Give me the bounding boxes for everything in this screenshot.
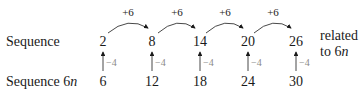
row-label-sequence-6n: Sequence 6n [6, 74, 77, 90]
side-note-prefix: to 6 [320, 44, 341, 59]
step-arrow-1 [108, 23, 148, 33]
top-value: 2 [88, 34, 118, 50]
step-arrow-3 [206, 23, 243, 33]
step-label: +6 [162, 6, 192, 18]
bottom-value: 24 [233, 74, 263, 90]
top-value: 8 [137, 34, 167, 50]
side-note-var: n [341, 44, 348, 59]
top-value: 26 [281, 34, 311, 50]
row-label-var: n [70, 74, 77, 89]
offset-label: −4 [299, 57, 310, 68]
offset-label: −4 [203, 57, 214, 68]
offset-label: −4 [155, 57, 166, 68]
bottom-value: 6 [88, 74, 118, 90]
step-label: +6 [113, 6, 143, 18]
top-value: 14 [185, 34, 215, 50]
step-label: +6 [258, 6, 288, 18]
bottom-value: 12 [137, 74, 167, 90]
side-note-line1: related [320, 28, 358, 44]
offset-label: −4 [106, 57, 117, 68]
offset-label: −4 [251, 57, 262, 68]
bottom-value: 18 [185, 74, 215, 90]
step-arrow-4 [254, 23, 291, 33]
step-arrow-2 [158, 23, 195, 33]
top-value: 20 [233, 34, 263, 50]
row-label-sequence: Sequence [6, 34, 60, 50]
side-note-line2: to 6n [320, 44, 358, 60]
bottom-value: 30 [281, 74, 311, 90]
row-label-prefix: Sequence 6 [6, 74, 70, 89]
step-label: +6 [210, 6, 240, 18]
side-note: related to 6n [320, 28, 358, 60]
